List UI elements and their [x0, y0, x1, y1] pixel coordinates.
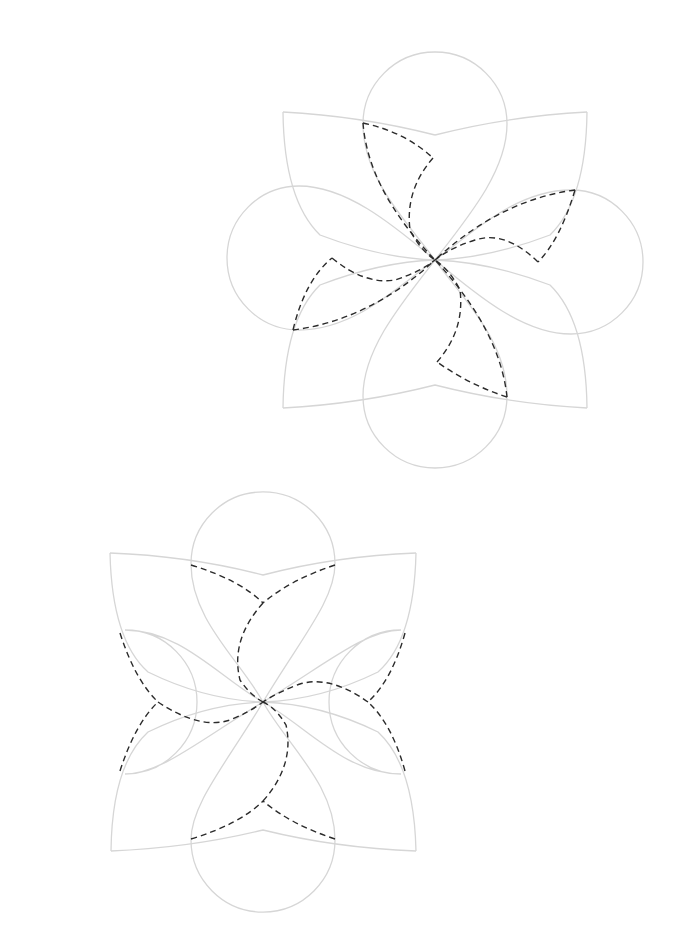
dashed-curve: [263, 565, 335, 603]
dashed-curve: [435, 260, 507, 397]
outline-curve: [111, 702, 263, 851]
dashed-line-group: [293, 123, 575, 397]
dashed-curve: [363, 123, 435, 260]
dashed-curve: [238, 603, 263, 702]
outline-curve: [263, 630, 401, 774]
dashed-curve: [363, 123, 433, 158]
outline-curve: [283, 385, 587, 408]
clover-flower-bottom: [110, 492, 416, 912]
dashed-curve: [538, 190, 575, 262]
outline-curve: [363, 260, 507, 468]
dashed-curve: [437, 362, 507, 397]
outline-curve: [435, 190, 643, 334]
dashed-curve: [191, 565, 263, 603]
dashed-line-group: [120, 565, 405, 839]
dashed-curve: [435, 238, 538, 262]
dashed-curve: [120, 633, 158, 702]
outline-curve: [363, 52, 507, 260]
pinwheel-flower-top: [227, 52, 643, 468]
outline-curve: [435, 112, 587, 260]
diagram-canvas: [0, 0, 698, 939]
outline-curve: [283, 112, 587, 135]
dashed-curve: [263, 702, 288, 801]
dashed-curve: [158, 702, 263, 723]
outline-curve: [125, 630, 263, 774]
outline-curve: [110, 553, 416, 575]
dashed-curve: [263, 801, 335, 839]
dashed-curve: [120, 702, 158, 771]
dashed-curve: [409, 158, 435, 260]
outline-curve: [263, 553, 416, 702]
dashed-curve: [435, 260, 461, 362]
dashed-curve: [368, 702, 405, 771]
dashed-curve: [191, 801, 263, 839]
outline-curve: [111, 830, 416, 851]
outline-curve: [283, 260, 435, 408]
